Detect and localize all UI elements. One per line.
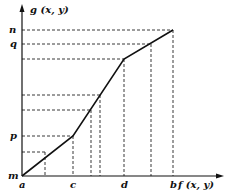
x-axis-label: f (x, y) [177,179,214,191]
tick-a: a [19,179,25,190]
guide-lines [22,30,173,176]
tick-b: b [170,179,177,190]
x-axis-arrow-icon [216,174,224,179]
y-axis-label: g (x, y) [30,4,69,16]
tick-c: c [70,179,76,190]
piecewise-linear-diagram: g (x, y) f (x, y) n q p m a c d b [0,0,227,191]
tick-m: m [8,170,19,181]
tick-p: p [10,130,17,141]
tick-q: q [10,38,17,49]
tick-n: n [9,24,16,35]
tick-d: d [121,179,128,190]
y-axis-arrow-icon [20,4,25,12]
